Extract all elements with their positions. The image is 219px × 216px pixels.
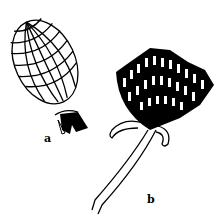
panel-b-flower-head <box>116 48 214 130</box>
panel-b-stem-and-bracts <box>92 121 169 214</box>
panel-a-bud <box>0 9 91 115</box>
botanical-figure <box>0 0 219 216</box>
panel-a-tip <box>58 112 88 134</box>
panel-label-b: b <box>147 194 155 205</box>
panel-label-a: a <box>44 133 51 144</box>
